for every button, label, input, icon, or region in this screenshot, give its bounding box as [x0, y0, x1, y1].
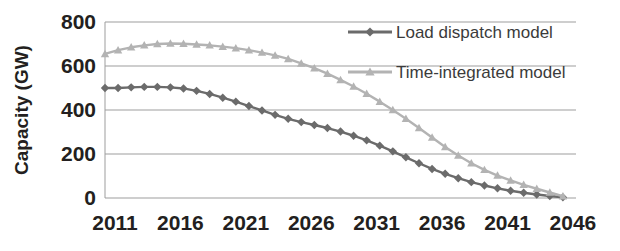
x-tick-label: 2021 [222, 211, 269, 234]
y-axis-ticks: 0200400600800 [61, 10, 96, 209]
y-axis-title: Capacity (GW) [11, 45, 32, 175]
x-tick-label: 2041 [484, 211, 531, 234]
y-tick-label: 400 [61, 98, 96, 121]
legend-label: Load dispatch model [396, 23, 553, 42]
y-axis-label: Capacity (GW) [11, 45, 32, 175]
y-tick-label: 0 [84, 186, 96, 209]
x-tick-label: 2036 [419, 211, 466, 234]
y-tick-label: 800 [61, 10, 96, 33]
capacity-chart: 0200400600800 20112016202120262031203620… [0, 0, 620, 251]
legend-label: Time-integrated model [396, 63, 565, 82]
chart-canvas: 0200400600800 20112016202120262031203620… [0, 0, 620, 251]
y-tick-label: 600 [61, 54, 96, 77]
x-tick-label: 2046 [550, 211, 597, 234]
x-tick-label: 2031 [353, 211, 400, 234]
x-tick-label: 2016 [157, 211, 204, 234]
x-tick-label: 2011 [92, 211, 138, 234]
y-tick-label: 200 [61, 142, 96, 165]
x-tick-label: 2026 [288, 211, 335, 234]
x-axis-ticks: 20112016202120262031203620412046 [92, 211, 596, 234]
